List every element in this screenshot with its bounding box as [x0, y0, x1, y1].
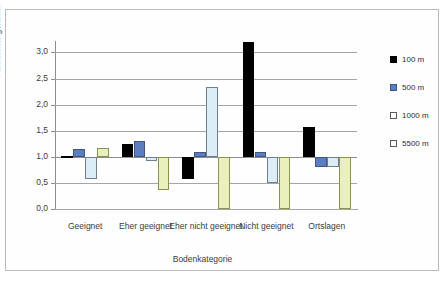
y-axis-tick: [51, 52, 55, 53]
bar-2-3: [267, 157, 279, 183]
y-axis-tick-label: 2,0: [14, 100, 48, 109]
y-axis-tick-label: 1,0: [14, 152, 48, 161]
legend-swatch-icon: [390, 84, 397, 91]
bar-2-0: [85, 157, 97, 179]
legend-label: 500 m: [402, 83, 424, 92]
legend-label: 100 m: [402, 55, 424, 64]
gridline: [55, 209, 357, 210]
y-axis-tick: [51, 209, 55, 210]
bar-0-2: [182, 157, 194, 179]
x-axis-category-label: Ortslagen: [289, 221, 365, 232]
legend-swatch-icon: [390, 112, 397, 119]
gridline: [55, 79, 357, 80]
gridline: [55, 183, 357, 184]
bar-2-1: [146, 157, 158, 161]
bar-2-2: [206, 87, 218, 156]
legend-item-1[interactable]: 500 m: [390, 83, 446, 111]
bar-3-3: [279, 157, 291, 209]
bar-0-0: [61, 156, 73, 158]
chart-figure: 0,00,51,01,52,02,53,0 Abweichungsfaktor …: [0, 0, 447, 282]
bar-3-4: [339, 157, 351, 209]
plot-area: [55, 42, 357, 209]
gridline: [55, 52, 357, 53]
bar-1-1: [134, 141, 146, 157]
x-axis-title-text: Bodenkategorie: [173, 254, 233, 264]
y-axis-tick: [51, 79, 55, 80]
gridline: [55, 157, 357, 158]
legend-label: 1000 m: [402, 111, 429, 120]
bar-2-4: [327, 157, 339, 167]
bar-1-2: [194, 152, 206, 157]
legend-swatch-icon: [390, 140, 397, 147]
legend-item-3[interactable]: 5500 m: [390, 139, 446, 167]
legend-item-0[interactable]: 100 m: [390, 55, 446, 83]
bar-3-0: [97, 148, 109, 157]
y-axis-title: Abweichungsfaktor: [0, 4, 2, 76]
y-axis-tick-label: 2,5: [14, 74, 48, 83]
legend-label: 5500 m: [402, 139, 429, 148]
bar-0-4: [303, 127, 315, 157]
bar-1-4: [315, 157, 327, 167]
y-axis-tick: [51, 131, 55, 132]
bar-0-3: [243, 42, 255, 157]
y-axis-tick-label: 3,0: [14, 47, 48, 56]
bar-3-2: [218, 157, 230, 209]
bar-1-0: [73, 149, 85, 157]
y-axis-tick: [51, 157, 55, 158]
legend-item-2[interactable]: 1000 m: [390, 111, 446, 139]
y-axis-tick: [51, 183, 55, 184]
y-axis-tick: [51, 105, 55, 106]
y-axis-tick-labels: 0,00,51,01,52,02,53,0: [10, 0, 48, 282]
y-axis-tick-label: 0,0: [14, 204, 48, 213]
bar-1-3: [255, 152, 267, 157]
bar-3-1: [158, 157, 170, 190]
y-axis-tick-label: 1,5: [14, 126, 48, 135]
legend-swatch-icon: [390, 56, 397, 63]
y-axis-tick-label: 0,5: [14, 178, 48, 187]
x-axis-title: Bodenkategorie: [0, 254, 447, 264]
bar-0-1: [122, 144, 134, 157]
legend: 100 m500 m1000 m5500 m: [390, 55, 446, 167]
